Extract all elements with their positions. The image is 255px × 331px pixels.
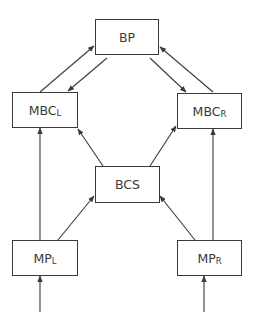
diagram: BP MBCL MBCR BCS MPL MPR bbox=[0, 0, 255, 331]
node-bcs: BCS bbox=[95, 166, 160, 203]
arrow-bp-to-mbcr bbox=[150, 58, 186, 92]
arrow-mpl-to-bcs bbox=[58, 196, 94, 240]
node-mbc-l: MBCL bbox=[12, 92, 78, 128]
arrow-mpr-to-bcs bbox=[160, 196, 195, 240]
node-mbc-r-label: MBC bbox=[193, 104, 221, 119]
arrow-mbcr-to-bp bbox=[160, 47, 213, 92]
arrow-bcs-to-mbcl bbox=[78, 129, 103, 166]
node-mbc-l-label: MBC bbox=[29, 103, 57, 118]
node-mp-l-subscript: L bbox=[52, 256, 57, 266]
node-mbc-r: MBCR bbox=[177, 93, 242, 129]
arrow-mbcl-to-bp bbox=[40, 46, 94, 92]
node-mbc-l-subscript: L bbox=[57, 108, 62, 118]
node-mp-l: MPL bbox=[12, 240, 78, 276]
node-bp-label: BP bbox=[119, 30, 135, 45]
node-mp-r-subscript: R bbox=[216, 256, 222, 266]
node-bcs-label: BCS bbox=[115, 177, 140, 192]
node-mp-l-label: MP bbox=[33, 251, 51, 266]
node-bp: BP bbox=[95, 19, 159, 55]
node-mp-r: MPR bbox=[177, 240, 242, 276]
node-mp-r-label: MP bbox=[197, 251, 215, 266]
arrow-bcs-to-mbcr bbox=[150, 126, 176, 166]
node-mbc-r-subscript: R bbox=[220, 109, 226, 119]
